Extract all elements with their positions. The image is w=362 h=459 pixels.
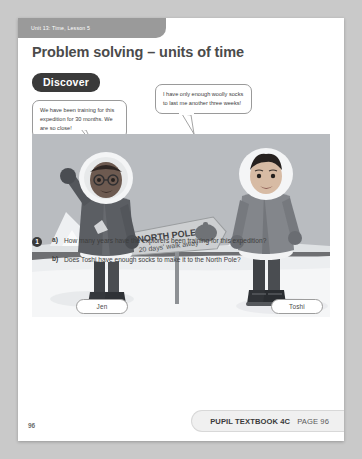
question-row-b: b) Does Toshi have enough socks to make … [32,255,322,266]
speech-tail-toshi-icon [179,114,195,132]
unit-tab-label: Unit 13: Time, Lesson 5 [31,25,90,31]
page-title: Problem solving – units of time [32,44,244,60]
questions-block: 1 a) How many years have the explorers b… [32,236,322,266]
name-pill-toshi-label: Toshi [289,303,305,310]
question-a-letter: a) [52,236,64,243]
question-a-text: How many years have the explorers been t… [64,236,266,247]
question-b-letter: b) [52,255,64,262]
scene-illustration: NORTH POLE 20 days' walk away [32,134,330,317]
footer-book-label: PUPIL TEXTBOOK 4C [210,417,290,426]
footer-page-label: PAGE 96 [297,417,329,426]
name-pill-jen: Jen [76,299,128,314]
question-row-a: 1 a) How many years have the explorers b… [32,236,322,247]
textbook-page: Unit 13: Time, Lesson 5 Problem solving … [18,18,344,441]
speech-bubble-toshi-text: I have only enough woolly socks to last … [163,91,243,106]
name-pill-jen-label: Jen [97,303,108,310]
jen-mitten [60,168,76,184]
footer-banner: PUPIL TEXTBOOK 4C PAGE 96 [191,410,344,432]
unit-tab: Unit 13: Time, Lesson 5 [18,18,166,38]
speech-bubble-jen-text: We have been training for this expeditio… [40,107,114,131]
speech-bubble-toshi: I have only enough woolly socks to last … [155,84,252,114]
question-b-text: Does Toshi have enough socks to make it … [64,255,241,266]
name-pill-toshi: Toshi [271,299,323,314]
discover-badge: Discover [32,73,100,92]
page-number: 96 [28,422,35,429]
question-number-badge: 1 [32,237,42,247]
